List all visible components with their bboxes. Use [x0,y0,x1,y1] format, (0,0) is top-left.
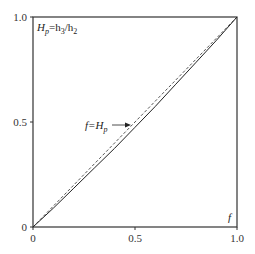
diagonal-reference-line [33,17,237,227]
diagonal-annotation: f=Hp [85,119,107,134]
y-tick-label: 0 [22,221,28,233]
y-tick-label: 1.0 [13,11,27,23]
chart: 1.0 0.5 0 0 0.5 1.0 Hp=h3/h2 f=Hp f [0,0,255,254]
x-tick-label: 0 [30,232,36,244]
y-axis-label: Hp=h3/h2 [36,21,77,36]
x-axis-label: f [228,211,233,223]
arrowhead-icon [125,123,131,128]
x-tick-label: 0.5 [128,232,142,244]
y-tick-label: 0.5 [13,116,27,128]
x-tick-label: 1.0 [230,232,244,244]
